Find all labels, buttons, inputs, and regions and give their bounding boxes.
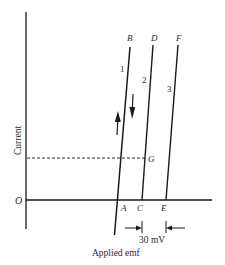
dimension-label: 30 mV — [139, 235, 165, 245]
dimension-marker-30mv — [125, 221, 185, 233]
current-emf-diagram: O A C E B D F G 1 2 3 30 mV Current Appl… — [0, 0, 225, 265]
curve-2-label: 2 — [142, 75, 147, 85]
point-b-label: B — [127, 33, 133, 43]
point-d-label: D — [150, 33, 158, 43]
curve-3-line — [166, 45, 178, 200]
curve-1-label: 1 — [120, 64, 125, 74]
curve-2-line — [142, 45, 153, 200]
down-arrow-icon — [129, 94, 135, 119]
point-c-label: C — [137, 203, 144, 213]
curve-3-label: 3 — [167, 84, 172, 94]
point-f-label: F — [175, 33, 182, 43]
y-axis-label: Current — [13, 126, 23, 155]
x-axis-label: Applied emf — [92, 248, 141, 258]
point-e-label: E — [160, 203, 167, 213]
up-arrow-icon — [115, 111, 121, 135]
point-g-label: G — [148, 154, 155, 164]
point-a-label: A — [120, 203, 127, 213]
origin-label: O — [15, 195, 22, 206]
